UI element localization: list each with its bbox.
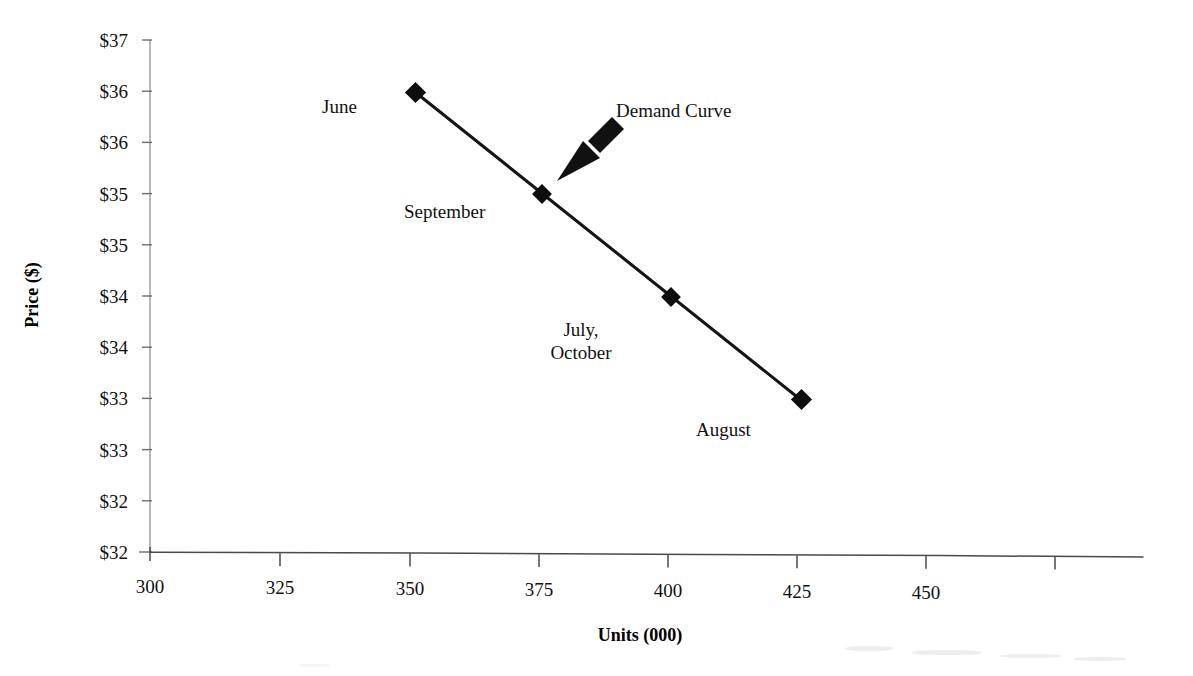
x-tick-label: 300 bbox=[136, 577, 165, 596]
y-tick-label: $35 bbox=[60, 236, 128, 255]
y-axis-title: Price ($) bbox=[22, 215, 43, 375]
y-tick-label: $33 bbox=[60, 389, 128, 408]
x-tick-label: 375 bbox=[525, 580, 554, 599]
y-tick-label: $33 bbox=[60, 441, 128, 460]
demand-curve-chart: $37 $36 $36 $35 $35 $34 $34 $33 $33 $32 … bbox=[0, 0, 1193, 676]
demand-curve-annotation-label: Demand Curve bbox=[616, 100, 732, 121]
x-axis-line bbox=[150, 552, 1143, 557]
y-tick-label: $37 bbox=[60, 31, 128, 50]
point-label-september: September bbox=[404, 200, 485, 223]
scan-artifact bbox=[912, 650, 982, 655]
y-tick-label: $32 bbox=[60, 492, 128, 511]
x-tick-label: 450 bbox=[912, 583, 941, 602]
data-point-marker-august bbox=[791, 389, 812, 410]
x-axis-ticks bbox=[150, 547, 1055, 569]
point-label-august: August bbox=[696, 418, 751, 441]
y-tick-label: $32 bbox=[60, 543, 128, 562]
x-tick-label: 325 bbox=[266, 578, 295, 597]
y-tick-label: $36 bbox=[60, 82, 128, 101]
demand-curve-arrow-icon bbox=[557, 117, 624, 181]
x-tick-label: 400 bbox=[654, 581, 683, 600]
point-label-july-october: July, October bbox=[536, 318, 626, 364]
scan-artifact bbox=[1074, 657, 1126, 661]
y-tick-label: $34 bbox=[60, 338, 128, 357]
y-tick-label: $36 bbox=[60, 133, 128, 152]
y-tick-label: $35 bbox=[60, 185, 128, 204]
point-label-june: June bbox=[322, 95, 357, 118]
scan-artifact bbox=[1000, 654, 1060, 658]
x-tick-label: 350 bbox=[396, 579, 425, 598]
x-axis-title: Units (000) bbox=[598, 625, 683, 646]
y-tick-label: $34 bbox=[60, 287, 128, 306]
scan-artifact bbox=[300, 664, 330, 667]
scan-artifact bbox=[846, 646, 892, 651]
x-tick-label: 425 bbox=[783, 582, 812, 601]
